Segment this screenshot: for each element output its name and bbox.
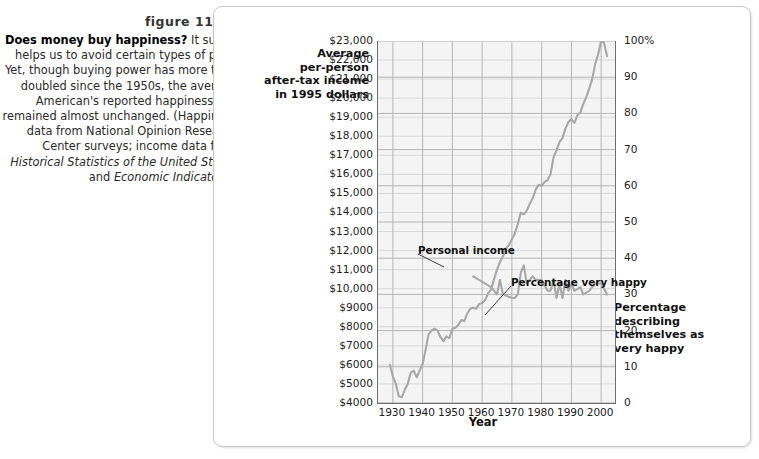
y-tick-left-14000: $14,000 [277, 205, 373, 217]
y-tick-left-9000: $9000 [277, 301, 373, 313]
y-axis-left-tick-labels: $4000$5000$6000$7000$8000$9000$10,000$11… [277, 7, 373, 448]
y-tick-right-60: 60 [624, 179, 637, 191]
figure-number: figure 11.15 [2, 14, 237, 29]
figure-panel: Averageper-personafter-tax incomein 1995… [213, 6, 751, 447]
y-tick-right-50: 50 [624, 215, 637, 227]
y-tick-left-11000: $11,000 [277, 263, 373, 275]
chart-svg [378, 41, 616, 403]
figure-caption-text: Does money buy happiness? It surely help… [2, 33, 237, 185]
y-tick-left-15000: $15,000 [277, 186, 373, 198]
y-tick-left-13000: $13,000 [277, 225, 373, 237]
y-tick-right-10: 10 [624, 360, 637, 372]
y-tick-left-7000: $7000 [277, 339, 373, 351]
y-tick-left-23000: $23,000 [277, 34, 373, 46]
figure-caption: figure 11.15 Does money buy happiness? I… [0, 0, 243, 459]
y-tick-left-18000: $18,000 [277, 129, 373, 141]
x-tick-2000: 2000 [580, 406, 620, 418]
y-tick-right-100: 100% [624, 34, 654, 46]
caption-lead: Does money buy happiness? [5, 33, 187, 47]
y-tick-left-21000: $21,000 [277, 72, 373, 84]
y-tick-left-10000: $10,000 [277, 282, 373, 294]
y-tick-left-5000: $5000 [277, 377, 373, 389]
caption-body-1: It surely helps us to avoid certain type… [2, 33, 237, 153]
y-tick-right-80: 80 [624, 106, 637, 118]
y-tick-left-12000: $12,000 [277, 244, 373, 256]
y-tick-left-16000: $16,000 [277, 167, 373, 179]
caption-source-1: Historical Statistics of the United Stat… [10, 155, 237, 169]
y-tick-right-30: 30 [624, 287, 637, 299]
annotation-percentage-very-happy: Percentage very happy [511, 276, 647, 288]
y-tick-right-90: 90 [624, 70, 637, 82]
y-tick-left-22000: $22,000 [277, 53, 373, 65]
y-tick-left-17000: $17,000 [277, 148, 373, 160]
caption-source-2: Economic Indicators [114, 170, 229, 184]
y-tick-left-19000: $19,000 [277, 110, 373, 122]
annotation-personal-income: Personal income [418, 244, 515, 256]
y-tick-left-20000: $20,000 [277, 91, 373, 103]
y-tick-right-70: 70 [624, 143, 637, 155]
plot-area: Personal income Percentage very happy [377, 41, 616, 404]
y-tick-right-40: 40 [624, 251, 637, 263]
x-axis-tick-labels: 19301940195019601970198019902000 [214, 403, 752, 423]
y-tick-left-8000: $8000 [277, 320, 373, 332]
caption-body-2: and [89, 170, 114, 184]
y-tick-right-20: 20 [624, 324, 637, 336]
y-tick-left-6000: $6000 [277, 358, 373, 370]
y-axis-right-tick-labels: 0102030405060708090100% [624, 7, 694, 448]
